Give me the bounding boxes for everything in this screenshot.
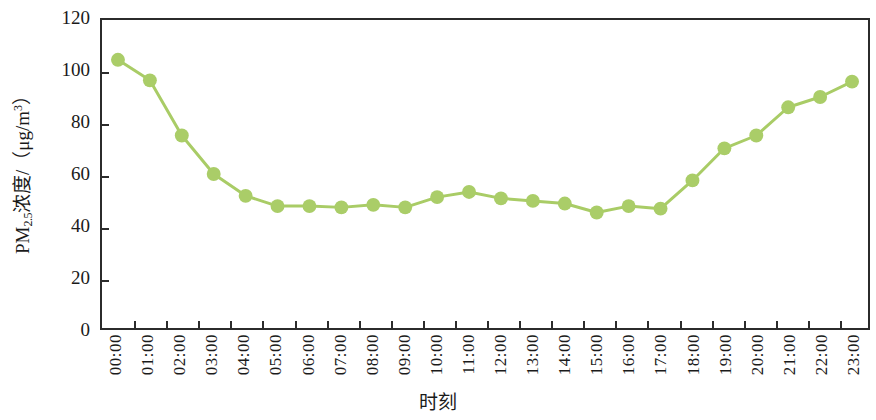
x-axis-tick-mark	[455, 321, 457, 328]
data-point-marker	[366, 198, 380, 212]
x-axis-tick-mark	[583, 321, 585, 328]
x-axis-tick-mark	[647, 321, 649, 328]
x-axis-tick-label: 02:00	[171, 334, 188, 375]
x-axis-tick-label: 16:00	[620, 334, 637, 375]
y-axis-tick-label: 100	[28, 60, 90, 80]
x-axis-tick-label: 05:00	[267, 334, 284, 375]
data-point-marker	[334, 200, 348, 214]
data-point-marker	[462, 185, 476, 199]
x-axis-tick-label: 23:00	[845, 334, 862, 375]
plot-area	[100, 18, 870, 330]
data-point-marker	[207, 167, 221, 181]
x-axis-tick-mark	[327, 321, 329, 328]
data-point-marker	[781, 100, 795, 114]
x-axis-title: 时刻	[0, 393, 876, 412]
data-point-marker	[271, 199, 285, 213]
x-axis-tick-mark	[615, 321, 617, 328]
x-axis-tick-label: 01:00	[139, 334, 156, 375]
x-axis-tick-mark	[776, 321, 778, 328]
data-point-marker	[111, 53, 125, 67]
data-point-marker	[813, 90, 827, 104]
x-axis-tick-label: 08:00	[364, 334, 381, 375]
x-axis-tick-mark	[295, 321, 297, 328]
y-axis-tick-mark	[102, 72, 109, 74]
x-axis-tick-mark	[134, 321, 136, 328]
x-axis-tick-label: 22:00	[813, 334, 830, 375]
y-axis-title-superscript: 3	[11, 105, 25, 111]
data-point-marker	[143, 73, 157, 87]
data-point-marker	[654, 202, 668, 216]
data-point-marker	[526, 194, 540, 208]
x-axis-tick-mark	[262, 321, 264, 328]
data-line	[118, 60, 852, 213]
x-axis-tick-label: 10:00	[428, 334, 445, 375]
data-point-marker	[749, 129, 763, 143]
data-point-marker	[590, 206, 604, 220]
x-axis-tick-mark	[712, 321, 714, 328]
data-point-marker	[717, 141, 731, 155]
y-axis-tick-mark	[102, 124, 109, 126]
x-axis-tick-label: 14:00	[556, 334, 573, 375]
x-axis-tick-label: 18:00	[685, 334, 702, 375]
x-axis-tick-mark	[423, 321, 425, 328]
data-point-marker	[845, 75, 859, 89]
x-axis-tick-label: 15:00	[588, 334, 605, 375]
data-point-marker	[558, 197, 572, 211]
x-axis-tick-label: 11:00	[460, 334, 477, 375]
x-axis-tick-label: 20:00	[749, 334, 766, 375]
x-axis-tick-label: 13:00	[524, 334, 541, 375]
y-axis-tick-label: 0	[28, 320, 90, 340]
data-point-marker	[494, 191, 508, 205]
pm25-hourly-line-chart: PM2.5浓度/（μg/m3） 020406080100120 00:0001:…	[0, 0, 876, 420]
data-point-marker	[175, 129, 189, 143]
x-axis-tick-label: 04:00	[235, 334, 252, 375]
x-axis-tick-label: 09:00	[396, 334, 413, 375]
x-axis-tick-mark	[166, 321, 168, 328]
x-axis-tick-label: 03:00	[203, 334, 220, 375]
x-axis-tick-label: 17:00	[652, 334, 669, 375]
x-axis-tick-mark	[230, 321, 232, 328]
x-axis-tick-mark	[198, 321, 200, 328]
x-axis-tick-label: 07:00	[332, 334, 349, 375]
x-axis-tick-label: 19:00	[717, 334, 734, 375]
data-point-marker	[685, 174, 699, 188]
x-axis-tick-mark	[808, 321, 810, 328]
x-axis-tick-mark	[840, 321, 842, 328]
x-axis-tick-mark	[744, 321, 746, 328]
x-axis-tick-mark	[680, 321, 682, 328]
x-axis-tick-label: 12:00	[492, 334, 509, 375]
data-point-marker	[622, 199, 636, 213]
y-axis-tick-label: 60	[28, 164, 90, 184]
data-point-marker	[302, 199, 316, 213]
x-axis-tick-mark	[359, 321, 361, 328]
x-axis-tick-label: 21:00	[781, 334, 798, 375]
data-point-marker	[430, 190, 444, 204]
y-axis-tick-labels: 020406080100120	[28, 8, 90, 330]
y-axis-tick-label: 40	[28, 216, 90, 236]
x-axis-tick-mark	[519, 321, 521, 328]
y-axis-tick-label: 20	[28, 268, 90, 288]
data-point-marker	[398, 200, 412, 214]
data-point-marker	[239, 189, 253, 203]
y-axis-tick-mark	[102, 176, 109, 178]
x-axis-tick-mark	[391, 321, 393, 328]
x-axis-tick-label: 06:00	[300, 334, 317, 375]
x-axis-tick-labels: 00:0001:0002:0003:0004:0005:0006:0007:00…	[100, 334, 870, 392]
y-axis-tick-mark	[102, 228, 109, 230]
x-axis-tick-mark	[487, 321, 489, 328]
data-series-svg	[102, 20, 868, 328]
x-axis-tick-label: 00:00	[107, 334, 124, 375]
y-axis-tick-label: 80	[28, 112, 90, 132]
y-axis-tick-mark	[102, 280, 109, 282]
x-axis-tick-mark	[551, 321, 553, 328]
y-axis-tick-label: 120	[28, 8, 90, 28]
